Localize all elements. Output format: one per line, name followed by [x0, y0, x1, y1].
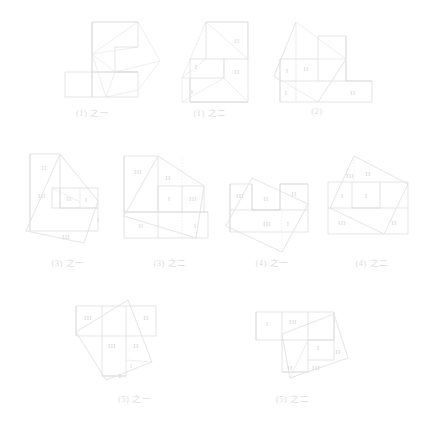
label-fig3a-0: II: [41, 164, 47, 172]
figure-5b: I III I II II III: [248, 296, 358, 396]
figure-2: I II I II: [272, 14, 387, 109]
label-fig4a-4: I: [287, 220, 290, 228]
label-fig5a-3: II: [133, 342, 139, 350]
label-fig2-2: I: [285, 89, 288, 97]
label-fig5b-0: I: [266, 320, 269, 328]
label-fig5b-4: II: [287, 364, 293, 372]
label-fig5a-2: III: [108, 342, 116, 350]
label-fig2-1: II: [303, 65, 309, 73]
caption-figure-1a: (1) 之一: [55, 106, 130, 118]
label-fig5a-5: I: [119, 372, 122, 380]
figure-5a: III II III II I I: [68, 292, 178, 392]
label-fig3a-2: II: [66, 195, 72, 203]
label-fig5a-1: II: [143, 314, 149, 322]
label-fig3a-5: III: [62, 233, 70, 241]
label-fig4b-1: II: [365, 170, 371, 178]
label-fig4b-2: I: [341, 192, 344, 200]
label-fig4a-2: II: [291, 190, 297, 198]
figure-1a: [60, 14, 170, 109]
caption-figure-5b: (5) 之二: [250, 392, 335, 404]
label-fig2-0: I: [286, 67, 289, 75]
label-fig5a-4: I: [130, 362, 133, 370]
figure-3b: III II I III II I: [118, 146, 223, 251]
figure-plate: (1) 之一 II I II I (1) 之二: [0, 0, 430, 433]
caption-figure-5a: (5) 之一: [92, 392, 177, 404]
label-fig3a-1: III: [38, 192, 46, 200]
caption-figure-3b: (3) 之二: [130, 256, 210, 268]
caption-figure-3a: (3) 之一: [28, 256, 108, 268]
label-fig1b-1: I: [195, 63, 198, 71]
label-fig1b-2: II: [234, 68, 240, 76]
label-fig3b-1: II: [165, 174, 171, 182]
label-fig4a-3: III: [263, 220, 271, 228]
figure-4b: III II I I III II: [322, 146, 427, 251]
label-fig5b-3: II: [335, 348, 341, 356]
label-fig5b-1: III: [289, 318, 297, 326]
figure-3a: II III II I I III: [12, 146, 122, 251]
label-fig3a-3: I: [85, 196, 88, 204]
label-fig4b-5: II: [391, 219, 397, 227]
label-fig1b-3: I: [191, 88, 194, 96]
label-fig3a-4: I: [97, 216, 100, 224]
label-fig5b-2: I: [317, 344, 320, 352]
label-fig1b-0: II: [234, 37, 240, 45]
figure-1b: II I II I: [176, 14, 276, 109]
label-fig5b-5: III: [312, 364, 320, 372]
label-fig3b-5: I: [194, 222, 197, 230]
caption-figure-4b: (4) 之二: [332, 256, 412, 268]
label-fig3b-4: II: [138, 222, 144, 230]
caption-figure-1b: (1) 之二: [170, 106, 250, 118]
label-fig4b-0: III: [346, 172, 354, 180]
caption-figure-4a: (4) 之一: [232, 256, 312, 268]
label-fig5a-0: III: [84, 314, 92, 322]
caption-figure-2: (2): [282, 106, 352, 116]
label-fig3b-2: I: [168, 195, 171, 203]
label-fig4a-1: II: [263, 195, 269, 203]
label-fig3b-0: III: [134, 168, 142, 176]
label-fig3b-3: III: [189, 195, 197, 203]
label-fig4b-3: I: [365, 192, 368, 200]
label-fig4a-0: III: [236, 192, 244, 200]
figure-4a: III II II III I: [222, 152, 327, 257]
label-fig4b-4: III: [338, 219, 346, 227]
label-fig2-3: II: [350, 89, 356, 97]
